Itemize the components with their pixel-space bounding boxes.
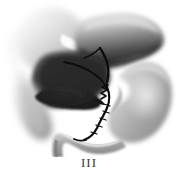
figure-container: III <box>0 0 178 177</box>
hepatobiliary-illustration <box>0 0 178 157</box>
figure-caption: III <box>0 155 178 171</box>
